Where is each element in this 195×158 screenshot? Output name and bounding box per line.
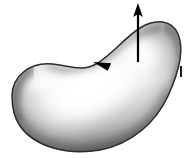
surface-diagram-svg — [0, 0, 195, 158]
figure-container — [0, 0, 195, 158]
edge-tick-mark — [180, 66, 182, 77]
shaded-bean-surface — [0, 0, 195, 158]
